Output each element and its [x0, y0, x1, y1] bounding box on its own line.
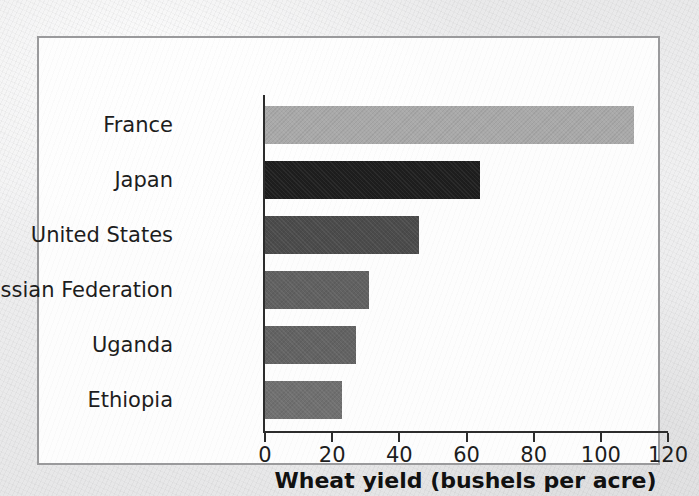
- x-tick-mark: [533, 433, 535, 442]
- bar-japan: [265, 161, 480, 199]
- bar-texture: [265, 326, 356, 364]
- x-tick-label: 120: [648, 443, 688, 467]
- bar-row: Ethiopia: [39, 381, 658, 419]
- bar-category-label: Uganda: [92, 333, 173, 357]
- bar-chart-plot: FranceJapanUnited StatesRussian Federati…: [39, 38, 658, 463]
- bar-category-label: Japan: [114, 168, 173, 192]
- bar-texture: [265, 106, 634, 144]
- bar-category-label: United States: [31, 223, 173, 247]
- bar-row: Uganda: [39, 326, 658, 364]
- bar-category-label: Ethiopia: [87, 388, 173, 412]
- x-axis-title: Wheat yield (bushels per acre): [263, 468, 668, 493]
- x-tick-label: 20: [319, 443, 346, 467]
- x-tick-mark: [600, 433, 602, 442]
- bar-category-label: Russian Federation: [0, 278, 173, 302]
- x-tick-mark: [466, 433, 468, 442]
- bar-france: [265, 106, 634, 144]
- bar-uganda: [265, 326, 356, 364]
- bar-row: Russian Federation: [39, 271, 658, 309]
- x-tick-mark: [264, 433, 266, 442]
- bar-texture: [265, 161, 480, 199]
- bar-row: France: [39, 106, 658, 144]
- bar-texture: [265, 216, 419, 254]
- x-tick-mark: [398, 433, 400, 442]
- bar-russian-federation: [265, 271, 369, 309]
- x-tick-label: 60: [453, 443, 480, 467]
- x-tick-mark: [331, 433, 333, 442]
- x-tick-mark: [667, 433, 669, 442]
- bar-texture: [265, 381, 342, 419]
- x-tick-label: 40: [386, 443, 413, 467]
- bar-category-label: France: [103, 113, 173, 137]
- bar-united-states: [265, 216, 419, 254]
- bar-ethiopia: [265, 381, 342, 419]
- figure-frame: FranceJapanUnited StatesRussian Federati…: [37, 36, 660, 465]
- x-tick-label: 80: [520, 443, 547, 467]
- bar-row: Japan: [39, 161, 658, 199]
- x-tick-label: 0: [258, 443, 271, 467]
- bar-texture: [265, 271, 369, 309]
- bar-row: United States: [39, 216, 658, 254]
- x-tick-label: 100: [581, 443, 621, 467]
